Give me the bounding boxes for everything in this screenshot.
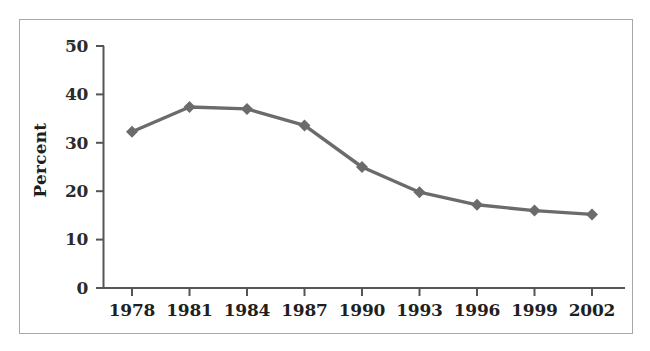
xtick-label-1984: 1984 [217, 300, 277, 320]
y-axis-label: Percent [30, 100, 50, 220]
data-point-marker [126, 126, 138, 138]
xtick-label-1981: 1981 [160, 300, 220, 320]
line-chart-plot [0, 0, 650, 351]
xtick-label-1996: 1996 [447, 300, 507, 320]
data-point-marker [586, 208, 598, 220]
chart-figure: 50 40 30 20 10 0 1978 1981 1984 1987 199… [0, 0, 650, 351]
xtick-label-1999: 1999 [505, 300, 565, 320]
x-axis-ticks [132, 288, 592, 296]
series-markers [126, 101, 598, 220]
ytick-label-0: 0 [48, 278, 88, 298]
xtick-label-1978: 1978 [102, 300, 162, 320]
series-line-percent [132, 107, 592, 214]
ytick-label-20: 20 [48, 181, 88, 201]
ytick-label-40: 40 [48, 84, 88, 104]
xtick-label-1990: 1990 [332, 300, 392, 320]
data-point-marker [471, 199, 483, 211]
ytick-label-10: 10 [48, 229, 88, 249]
data-point-marker [184, 101, 196, 113]
xtick-label-1987: 1987 [275, 300, 335, 320]
xtick-label-1993: 1993 [390, 300, 450, 320]
data-point-marker [529, 205, 541, 217]
ytick-label-30: 30 [48, 133, 88, 153]
xtick-label-2002: 2002 [562, 300, 622, 320]
data-point-marker [414, 186, 426, 198]
data-point-marker [241, 103, 253, 115]
ytick-label-50: 50 [48, 36, 88, 56]
